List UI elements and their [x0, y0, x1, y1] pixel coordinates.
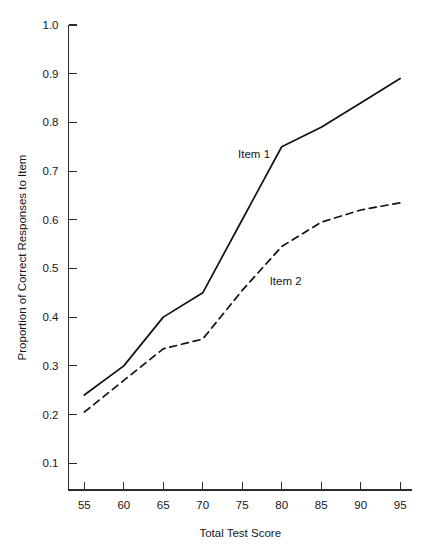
- item-characteristic-curve-chart: 0.10.20.30.40.50.60.70.80.91.0 556065707…: [0, 0, 430, 547]
- series-line-item-1: [84, 79, 400, 395]
- y-tick-label: 0.1: [43, 457, 59, 469]
- y-tick-label: 0.5: [43, 262, 59, 274]
- y-axis-ticks: [69, 25, 77, 463]
- y-tick-label: 0.7: [43, 165, 59, 177]
- y-tick-label: 0.6: [43, 214, 59, 226]
- data-series-group: [84, 79, 400, 413]
- y-tick-label: 0.8: [43, 116, 59, 128]
- series-label-item-1: Item 1: [238, 148, 270, 160]
- series-label-item-2: Item 2: [270, 275, 302, 287]
- series-line-item-2: [84, 203, 400, 412]
- x-tick-label: 95: [394, 499, 407, 511]
- y-tick-label: 0.4: [43, 311, 60, 323]
- x-tick-label: 75: [236, 499, 249, 511]
- y-tick-label: 0.9: [43, 68, 59, 80]
- x-tick-label: 80: [275, 499, 288, 511]
- y-tick-label: 0.2: [43, 409, 59, 421]
- x-axis-tick-labels: 556065707580859095: [78, 499, 407, 511]
- axis-lines: [69, 25, 413, 490]
- y-tick-label: 0.3: [43, 360, 59, 372]
- x-tick-label: 85: [315, 499, 328, 511]
- x-tick-label: 90: [354, 499, 367, 511]
- y-axis-title: Proportion of Correct Responses to Item: [16, 155, 28, 361]
- x-tick-label: 65: [157, 499, 170, 511]
- x-tick-label: 70: [196, 499, 209, 511]
- chart-figure: 0.10.20.30.40.50.60.70.80.91.0 556065707…: [0, 0, 430, 547]
- x-tick-label: 55: [78, 499, 91, 511]
- plot-axes: [69, 25, 413, 490]
- x-axis-title: Total Test Score: [199, 527, 281, 539]
- x-axis-ticks: [84, 482, 400, 490]
- x-tick-label: 60: [117, 499, 130, 511]
- y-axis-tick-labels: 0.10.20.30.40.50.60.70.80.91.0: [43, 19, 60, 469]
- y-tick-label: 1.0: [43, 19, 59, 31]
